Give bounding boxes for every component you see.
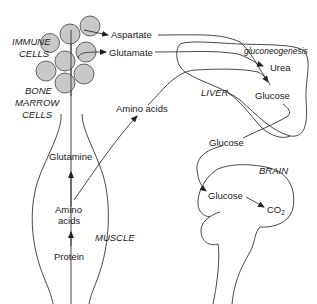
glucose-to-co2 [246, 197, 264, 207]
liver-glucose-label: Glucose [255, 90, 290, 101]
aspartate-label: Aspartate [111, 29, 152, 40]
immune-cells-label-2: CELLS [19, 48, 50, 59]
urea-label: Urea [270, 62, 291, 73]
immune-cell [60, 24, 80, 44]
metabolism-diagram: IMMUNE CELLS BONE MARROW CELLS Aspartate… [0, 0, 317, 304]
immune-cell [36, 61, 56, 81]
immune-cell [74, 64, 94, 84]
immune-cell [55, 73, 75, 93]
liver-label: LIVER [201, 87, 229, 98]
brain-glucose-label: Glucose [208, 190, 243, 201]
glutamine-label: Glutamine [49, 151, 92, 162]
aspartate-to-liver-glucose [158, 35, 268, 82]
bone-marrow-label-2: MARROW [15, 97, 60, 108]
immune-cells-label-1: IMMUNE [12, 36, 51, 47]
immune-cell [55, 51, 75, 71]
protein-label: Protein [54, 251, 84, 262]
brain-label: BRAIN [259, 165, 288, 176]
glutamate-label: Glutamate [109, 47, 153, 58]
muscle-amino-label-2: acids [58, 215, 80, 226]
co2-label: CO2 [267, 204, 285, 216]
bone-marrow-label-3: CELLS [22, 109, 53, 120]
blood-amino-acids-label: Amino acids [116, 103, 168, 114]
muscle-label: MUSCLE [95, 232, 135, 243]
gluconeogenesis-label: gluconeogenesis [244, 46, 309, 56]
muscle-amino-label-1: Amino [55, 204, 82, 215]
brain-outline [216, 165, 294, 304]
bone-marrow-label-1: BONE [25, 85, 53, 96]
blood-glucose-label: Glucose [209, 137, 244, 148]
